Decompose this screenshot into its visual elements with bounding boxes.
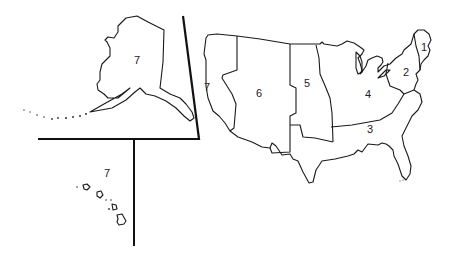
region-label-4: 4 <box>365 89 371 100</box>
boundary-2-4 <box>386 63 404 94</box>
region-label-6: 6 <box>256 88 262 99</box>
boundary-6-5 <box>270 44 296 153</box>
boundary-5-3 <box>290 125 333 142</box>
region-label-7-west: 7 <box>204 82 210 93</box>
us-region-map <box>0 0 459 262</box>
region-label-5: 5 <box>304 78 310 89</box>
region-label-2: 2 <box>403 67 409 78</box>
region-label-3: 3 <box>367 124 373 135</box>
contiguous-us <box>204 30 431 183</box>
region-label-1: 1 <box>421 42 427 53</box>
lake-erie <box>378 70 390 78</box>
hawaii-region-label: 7 <box>104 168 110 179</box>
alaska-region-label: 7 <box>134 55 140 66</box>
alaska-outline <box>23 16 194 121</box>
boundary-5-4 <box>316 45 333 142</box>
alaska-inset-divider <box>38 16 199 139</box>
aleutian-islands <box>23 109 87 120</box>
boundary-1-2 <box>414 34 420 70</box>
hawaii-outline <box>76 184 126 225</box>
boundary-4-3 <box>331 90 414 127</box>
boundary-7-6 <box>222 36 237 131</box>
